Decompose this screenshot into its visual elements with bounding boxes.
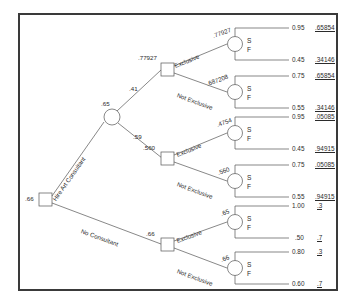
- endpoint-prob: 0.45: [292, 57, 304, 63]
- outcome-label-f-6: F: [247, 271, 251, 278]
- chance-node-1: [228, 37, 243, 52]
- outcome-label-f-1: F: [247, 47, 251, 54]
- endpoint-prob: 0.45: [292, 146, 304, 152]
- endpoint-prob: 0.95: [292, 114, 304, 120]
- outcome-label-s-3: S: [247, 127, 251, 134]
- decision-lower-value: .66: [146, 231, 155, 237]
- outcome-label-f-3: F: [247, 136, 251, 143]
- prob-upper: .41: [129, 86, 138, 92]
- endpoint-prob: 0.60: [292, 281, 304, 287]
- endpoint-prob: 0.55: [292, 194, 304, 200]
- root-value: .66: [25, 196, 34, 202]
- endpoint-payoff: .05085: [315, 114, 335, 121]
- outcome-label-s-6: S: [247, 262, 251, 269]
- chance-node-4: [228, 174, 243, 189]
- endpoint-payoff: .7: [317, 281, 322, 288]
- endpoint-prob: 0.75: [292, 162, 304, 168]
- endpoint-payoff: .94915: [315, 194, 335, 201]
- endpoint-payoff: .94915: [315, 146, 335, 153]
- endpoint-prob: 0.95: [292, 25, 304, 31]
- endpoint-payoff: .05085: [315, 162, 335, 169]
- decision-square-lower: [161, 238, 174, 251]
- decision-middle-value: .560: [143, 145, 155, 151]
- decision-square-middle: [161, 152, 174, 165]
- outcome-label-s-5: S: [247, 216, 251, 223]
- endpoint-payoff: .3: [317, 203, 322, 210]
- decision-square-upper: [161, 63, 174, 76]
- endpoint-prob: 0.75: [292, 73, 304, 79]
- endpoint-prob: 0.55: [292, 105, 304, 111]
- outcome-label-s-4: S: [247, 175, 251, 182]
- endpoint-payoff: .65854: [315, 73, 335, 80]
- root-decision-square: [39, 193, 52, 206]
- endpoint-prob: 0.80: [292, 249, 304, 255]
- endpoint-prob: .50: [295, 235, 304, 241]
- chance-node-3: [228, 126, 243, 141]
- endpoint-prob: 1.00: [292, 203, 304, 209]
- endpoint-payoff: .3: [317, 249, 322, 256]
- chance-node-hire-value: .65: [101, 101, 110, 107]
- prob-lower: .59: [133, 134, 142, 140]
- outcome-label-s-2: S: [247, 86, 251, 93]
- endpoint-payoff: .34146: [315, 57, 335, 64]
- chance-node-hire: [104, 109, 120, 125]
- outcome-label-s-1: S: [247, 38, 251, 45]
- chance-node-5: [228, 215, 243, 230]
- chance-node-6: [228, 261, 243, 276]
- endpoint-payoff: .65854: [315, 25, 335, 32]
- decision-upper-value: .77927: [138, 55, 157, 61]
- diagram-canvas: .66 Hire Art Consultant No Consultant .6…: [0, 0, 355, 308]
- endpoint-payoff: .34146: [315, 105, 335, 112]
- outcome-label-f-2: F: [247, 95, 251, 102]
- outcome-label-f-5: F: [247, 225, 251, 232]
- endpoint-payoff: .7: [317, 235, 322, 242]
- chance-node-2: [228, 85, 243, 100]
- outcome-label-f-4: F: [247, 184, 251, 191]
